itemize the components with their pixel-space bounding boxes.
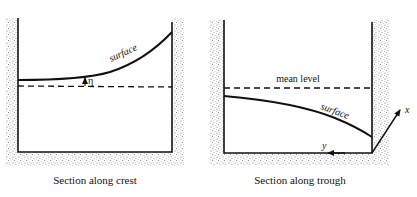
crest-caption: Section along crest: [53, 174, 137, 186]
trough-section-panel: mean level surface y x Section along tro…: [210, 20, 410, 186]
crest-section-panel: η surface Section along crest: [6, 18, 184, 186]
crest-surface-curve: [18, 32, 172, 80]
wave-section-diagram: η surface Section along crest mean level…: [0, 0, 417, 197]
mean-level-label: mean level: [276, 73, 320, 84]
trough-caption: Section along trough: [254, 174, 346, 186]
trough-surface-curve: [224, 96, 372, 137]
trough-tank-outline: [224, 20, 372, 153]
crest-tank-outline: [18, 18, 172, 152]
crest-tank-walls-stipple: [6, 18, 184, 166]
eta-label: η: [88, 75, 93, 86]
x-axis-label: x: [404, 104, 410, 115]
crest-surface-label: surface: [107, 41, 139, 64]
crest-mean-level-line: [18, 86, 172, 87]
y-axis-label: y: [321, 140, 327, 151]
trough-tank-walls-stipple: [210, 20, 390, 165]
